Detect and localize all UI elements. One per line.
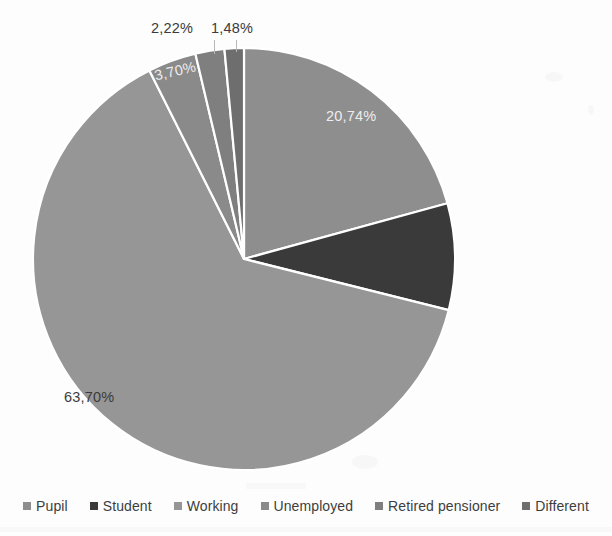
- chart-legend: PupilStudentWorkingUnemployedRetired pen…: [0, 492, 612, 520]
- legend-swatch-icon: [522, 502, 530, 510]
- leader-line-different: [236, 40, 237, 52]
- legend-item-retired-pensioner[interactable]: Retired pensioner: [375, 498, 500, 514]
- legend-swatch-icon: [375, 502, 383, 510]
- legend-item-label: Unemployed: [274, 498, 354, 514]
- legend-item-pupil[interactable]: Pupil: [23, 498, 68, 514]
- legend-item-working[interactable]: Working: [174, 498, 239, 514]
- slice-label-working: 63,70%: [64, 389, 114, 405]
- pie-slices-group: [33, 48, 455, 470]
- legend-item-unemployed[interactable]: Unemployed: [261, 498, 354, 514]
- legend-swatch-icon: [23, 502, 31, 510]
- legend-swatch-icon: [174, 502, 182, 510]
- legend-item-different[interactable]: Different: [522, 498, 589, 514]
- pie-chart: 20,74% 63,70% 3,70% 2,22% 1,48%: [0, 0, 612, 486]
- slice-label-different: 1,48%: [211, 20, 253, 36]
- pie-chart-svg: [0, 0, 612, 486]
- leader-line-retired: [214, 40, 215, 54]
- legend-swatch-icon: [261, 502, 269, 510]
- page-canvas: 20,74% 63,70% 3,70% 2,22% 1,48% PupilStu…: [0, 0, 612, 536]
- legend-item-label: Pupil: [36, 498, 68, 514]
- legend-swatch-icon: [90, 502, 98, 510]
- scan-artifact: [0, 527, 612, 532]
- slice-label-retired: 2,22%: [151, 20, 193, 36]
- slice-label-pupil: 20,74%: [326, 108, 376, 124]
- legend-item-label: Retired pensioner: [388, 498, 500, 514]
- legend-item-student[interactable]: Student: [90, 498, 152, 514]
- legend-item-label: Working: [187, 498, 239, 514]
- legend-item-label: Different: [535, 498, 589, 514]
- legend-item-label: Student: [103, 498, 152, 514]
